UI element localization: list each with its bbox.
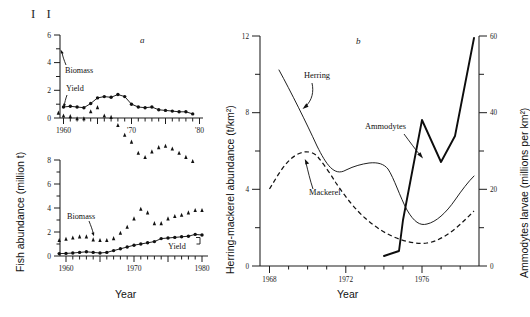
svg-text:60: 60 (490, 33, 498, 41)
svg-text:12: 12 (242, 33, 250, 41)
panel-b-right-y-axis-title: Ammodytes larvae (millions per km²) (518, 108, 530, 278)
svg-text:4: 4 (47, 58, 51, 67)
panel-letter-b: b (356, 36, 361, 46)
panel-a-top-x-ticks: 1960 '70 '80 (56, 118, 204, 135)
svg-text:1980: 1980 (194, 264, 209, 273)
panel-b-mackerel-curve (270, 152, 475, 244)
panel-a-bottom: 0 2 4 6 8 (40, 158, 220, 273)
panel-b-x-ticks: 1968 1972 1976 (262, 266, 460, 284)
svg-text:'70: '70 (127, 126, 136, 135)
panel-a-bottom-yield-label: Yield (168, 242, 186, 251)
svg-text:0: 0 (47, 252, 51, 261)
svg-text:20: 20 (490, 186, 498, 194)
svg-text:0: 0 (245, 263, 249, 271)
svg-text:1976: 1976 (415, 276, 430, 284)
svg-text:8: 8 (47, 156, 51, 165)
panel-b-left-y-ticks: 0 4 8 12 (242, 33, 260, 271)
panel-a-bottom-biomass-label: Biomass (67, 212, 95, 221)
svg-text:'80: '80 (195, 126, 204, 135)
left-panel-y-axis-title: Fish abundance (million t) (14, 152, 26, 272)
panel-b-ammodytes-label: Ammodytes (365, 122, 406, 131)
svg-text:6: 6 (47, 31, 51, 40)
panel-b-plot: 0 4 8 12 0 20 40 60 (236, 30, 506, 285)
panel-a-top-yield-label: Yield (66, 84, 84, 93)
panel-a-bottom-y-ticks: 0 2 4 6 8 (47, 156, 60, 261)
panel-b-x-axis-title: Year (337, 288, 358, 300)
svg-text:40: 40 (490, 109, 498, 117)
svg-text:4: 4 (245, 186, 249, 194)
panel-b-herring-curve (279, 70, 474, 224)
panel-a-top-biomass-label: Biomass (65, 66, 93, 75)
svg-text:0: 0 (490, 263, 494, 271)
svg-text:1968: 1968 (262, 276, 277, 284)
panel-b: 0 4 8 12 0 20 40 60 (236, 30, 506, 285)
panel-a-bottom-x-ticks: 1960 1970 1980 (58, 256, 209, 273)
panel-a-top-biomass-series (57, 105, 195, 163)
panel-a-top-yield-markers (62, 93, 195, 116)
svg-text:4: 4 (47, 204, 51, 213)
panel-a-top-plot: 0 2 4 6 (40, 33, 210, 133)
panel-letter-a: a (140, 35, 145, 45)
svg-text:0: 0 (47, 114, 51, 123)
panel-a-bottom-plot: 0 2 4 6 8 (40, 158, 220, 273)
panel-a-top-y-ticks: 0 2 4 6 (47, 31, 60, 123)
panel-b-left-y-axis-title: Herring-mackerel abundance (t/km²) (224, 105, 236, 274)
svg-text:1960: 1960 (58, 264, 73, 273)
svg-text:2: 2 (47, 86, 51, 95)
panel-a-top: 0 2 4 6 (40, 33, 210, 133)
svg-text:1960: 1960 (56, 126, 71, 135)
svg-text:2: 2 (47, 228, 51, 237)
svg-text:1970: 1970 (126, 264, 141, 273)
svg-text:8: 8 (245, 109, 249, 117)
svg-text:6: 6 (47, 180, 51, 189)
figure-id-label: I I (31, 6, 55, 22)
svg-text:1972: 1972 (339, 276, 354, 284)
panel-b-right-y-ticks: 0 20 40 60 (479, 33, 498, 271)
panel-a-x-axis-title: Year (115, 288, 136, 300)
panel-b-mackerel-label: Mackerel (309, 188, 341, 197)
panel-b-herring-label: Herring (304, 71, 331, 80)
